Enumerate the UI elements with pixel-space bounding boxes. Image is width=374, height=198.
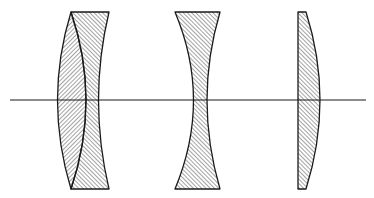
lens-diagram-svg [0,0,374,198]
lens-diagram: Lens system cross-section [0,0,374,198]
